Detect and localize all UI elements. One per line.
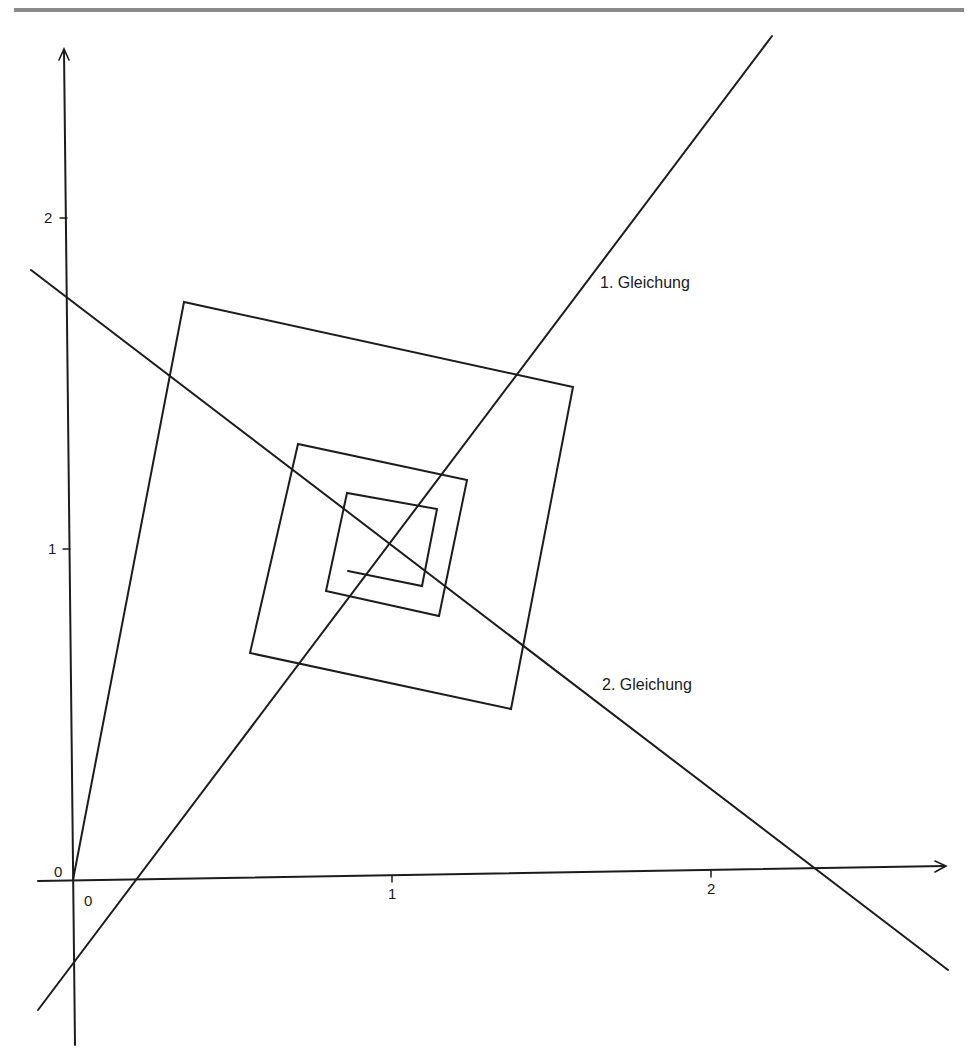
x-tick-label-2: 2 xyxy=(707,881,715,896)
x-axis xyxy=(38,866,945,881)
y-axis xyxy=(64,50,75,1045)
line-equation-1 xyxy=(38,36,772,1010)
equation-2-label: 2. Gleichung xyxy=(602,677,692,693)
y-tick-label-0: 0 xyxy=(54,864,62,879)
iteration-spiral xyxy=(73,302,573,880)
equation-1-label: 1. Gleichung xyxy=(600,275,690,291)
plot-canvas xyxy=(0,0,979,1059)
y-tick-label-2: 2 xyxy=(44,210,52,225)
x-tick-label-0: 0 xyxy=(84,893,92,908)
x-tick-label-1: 1 xyxy=(388,886,396,901)
line-equation-2 xyxy=(31,270,948,970)
y-tick-label-1: 1 xyxy=(48,541,56,556)
